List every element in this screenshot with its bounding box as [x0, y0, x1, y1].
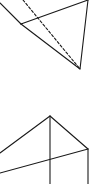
upper-dashed-edge [23, 0, 80, 69]
lower-right-slope-edge [50, 116, 88, 149]
lower-base-edge [0, 149, 88, 173]
upper-right-edge [80, 0, 88, 69]
upper-left-edge [0, 3, 21, 24]
upper-figure [0, 0, 88, 69]
lower-figure [0, 116, 88, 184]
upper-lower-edge [21, 24, 80, 69]
lower-left-slope-edge [0, 116, 50, 153]
upper-top-edge [21, 0, 88, 24]
geometry-diagram [0, 0, 100, 184]
